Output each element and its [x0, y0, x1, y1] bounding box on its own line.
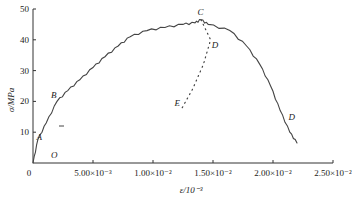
- point-label-e: E: [174, 98, 181, 108]
- y-ticks: 1020304050: [20, 4, 36, 137]
- y-axis-label: σ/MPa: [6, 87, 16, 112]
- x-tick-label: 2.00×10⁻²: [254, 168, 292, 178]
- point-label-a: A: [36, 132, 43, 142]
- point-label-d: D: [288, 112, 296, 122]
- point-label-b: B: [51, 90, 57, 100]
- x-tick-label: 5.00×10⁻³: [74, 168, 112, 178]
- x-tick-label: 1.00×10⁻²: [134, 168, 172, 178]
- point-annotations: OABCDED: [36, 7, 296, 160]
- y-tick-label: 10: [20, 127, 30, 137]
- y-tick-label: 30: [20, 66, 30, 76]
- point-label-c: C: [197, 7, 204, 17]
- y-tick-label: 40: [20, 35, 30, 45]
- axes: [33, 9, 333, 163]
- unloading-dotted-curve: [181, 20, 211, 111]
- x-tick-label: 2.50×10⁻²: [314, 168, 352, 178]
- data-series: [33, 20, 297, 163]
- x-tick-label: 1.50×10⁻²: [194, 168, 232, 178]
- y-tick-label: 20: [20, 96, 30, 106]
- stress-strain-chart: 1020304050 05.00×10⁻³1.00×10⁻²1.50×10⁻²2…: [0, 0, 359, 202]
- stress-strain-curve: [33, 20, 297, 163]
- y-tick-label: 50: [20, 4, 30, 14]
- point-label-o: O: [51, 150, 58, 160]
- x-axis-label: ε/10⁻³: [180, 185, 203, 195]
- chart-svg: 1020304050 05.00×10⁻³1.00×10⁻²1.50×10⁻²2…: [0, 0, 359, 202]
- point-label-d: D: [211, 40, 219, 50]
- x-tick-label: 0: [27, 168, 32, 178]
